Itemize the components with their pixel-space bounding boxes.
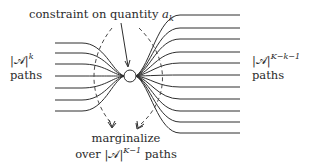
constraint-title: constraint on quantity ak: [29, 7, 174, 23]
constraint-arrow: [121, 23, 130, 67]
marginalization-diagram: constraint on quantity ak |𝒜|k paths |𝒜|…: [0, 0, 316, 166]
marginalize-label: marginalize over |𝒜|K−1 paths: [75, 131, 177, 162]
left-path-line: [55, 76, 124, 111]
svg-text:paths: paths: [10, 68, 42, 82]
left-paths-label: |𝒜|k paths: [10, 52, 42, 82]
constraint-node: [124, 70, 136, 82]
svg-text:|𝒜|K−k−1: |𝒜|K−k−1: [252, 52, 300, 68]
right-paths-label: |𝒜|K−k−1 paths: [252, 52, 300, 82]
right-path-line: [136, 15, 240, 76]
right-path-line: [136, 75, 240, 76]
svg-text:marginalize: marginalize: [92, 131, 161, 145]
left-path-line: [55, 43, 124, 76]
left-paths-group: [55, 43, 124, 111]
right-paths-group: [136, 15, 240, 133]
svg-text:paths: paths: [252, 68, 284, 82]
right-path-line: [136, 63, 240, 76]
svg-text:|𝒜|k: |𝒜|k: [10, 52, 34, 68]
svg-text:over |𝒜|K−1 paths: over |𝒜|K−1 paths: [75, 146, 177, 162]
right-path-line: [136, 76, 240, 133]
